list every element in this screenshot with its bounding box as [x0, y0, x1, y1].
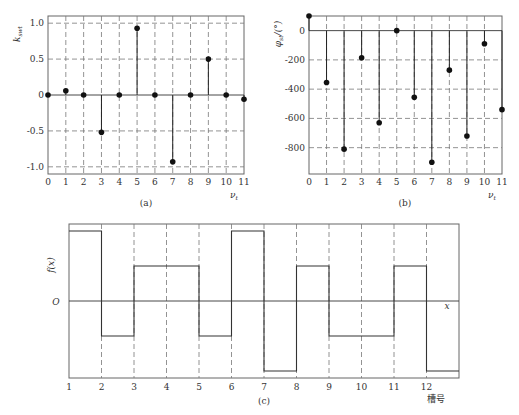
y-tick-label: 0 [299, 26, 305, 36]
data-point [241, 97, 247, 103]
x-tick-label: 3 [131, 382, 137, 392]
x-tick-label: 11 [496, 177, 507, 187]
x-tick-label: 5 [196, 382, 202, 392]
data-point [81, 92, 87, 98]
data-point [394, 28, 400, 34]
data-point [324, 80, 330, 86]
x-tick-label: 2 [99, 382, 105, 392]
data-point [464, 133, 470, 139]
x-tick-label: 4 [376, 177, 382, 187]
data-point [116, 92, 122, 98]
y-axis-label: φst/(°) [273, 20, 284, 47]
data-point [223, 92, 229, 98]
chart-b: 0-200-400-600-80001234567891011νtφst/(°)… [273, 13, 508, 208]
chart-caption: (c) [258, 396, 270, 406]
x-tick-label: 8 [188, 177, 194, 187]
y-tick-label: -600 [285, 113, 305, 123]
x-tick-label: 9 [205, 177, 211, 187]
x-tick-label: 2 [81, 177, 87, 187]
x-tick-label: 3 [99, 177, 105, 187]
x-tick-label: 7 [261, 382, 267, 392]
data-point [134, 25, 140, 31]
data-point [306, 13, 312, 19]
x-tick-label: 9 [464, 177, 470, 187]
x-tick-label: 0 [45, 177, 51, 187]
data-point [99, 130, 105, 136]
x-tick-label: 1 [324, 177, 330, 187]
data-point [411, 94, 417, 100]
data-point [376, 120, 382, 126]
data-point [482, 41, 488, 47]
x-tick-label: 7 [429, 177, 435, 187]
y-tick-label: 0.5 [30, 54, 45, 64]
x-tick-label: 1 [66, 382, 72, 392]
axis-x-label: x [444, 301, 449, 311]
x-tick-label: 12 [421, 382, 432, 392]
data-point [152, 92, 158, 98]
x-tick-label: 1 [63, 177, 69, 187]
y-tick-label: -200 [285, 55, 305, 65]
x-axis-label: νt [230, 190, 238, 201]
x-tick-label: 6 [229, 382, 235, 392]
x-tick-label: 4 [164, 382, 170, 392]
y-tick-label: -0.5 [27, 126, 45, 136]
data-point [188, 92, 194, 98]
data-point [447, 67, 453, 73]
data-point [499, 107, 505, 113]
data-point [170, 159, 176, 165]
figure: 1.00.50-0.5-1.001234567891011νtkswt(a)0-… [0, 0, 519, 415]
x-axis-label: 槽号 [427, 393, 445, 404]
x-tick-label: 2 [341, 177, 347, 187]
x-tick-label: 9 [326, 382, 332, 392]
x-tick-label: 0 [306, 177, 312, 187]
data-point [63, 88, 69, 94]
chart-caption: (a) [140, 198, 152, 208]
chart-c: 123456789101112f(x)Ox槽号(c) [46, 224, 459, 406]
x-tick-label: 11 [238, 177, 249, 187]
y-tick-label: 1.0 [30, 18, 45, 28]
data-point [341, 146, 347, 152]
x-tick-label: 4 [116, 177, 122, 187]
x-tick-label: 8 [446, 177, 452, 187]
x-tick-label: 3 [359, 177, 365, 187]
x-tick-label: 10 [479, 177, 491, 187]
origin-label: O [52, 297, 60, 307]
x-tick-label: 6 [152, 177, 158, 187]
plot-frame [309, 16, 502, 174]
y-tick-label: -800 [285, 143, 305, 153]
x-tick-label: 10 [356, 382, 368, 392]
data-point [359, 55, 365, 61]
data-point [429, 159, 435, 165]
x-tick-label: 11 [388, 382, 399, 392]
y-tick-label: -400 [285, 84, 305, 94]
chart-a: 1.00.50-0.5-1.001234567891011νtkswt(a) [12, 16, 250, 208]
x-tick-label: 6 [411, 177, 417, 187]
x-axis-label: νt [488, 190, 496, 201]
y-tick-label: -1.0 [27, 162, 45, 172]
data-point [45, 92, 51, 98]
x-tick-label: 8 [294, 382, 300, 392]
y-axis-label: f(x) [46, 257, 56, 274]
y-tick-label: 0 [38, 90, 44, 100]
y-axis-label: kswt [12, 25, 23, 42]
x-tick-label: 10 [220, 177, 232, 187]
chart-caption: (b) [399, 198, 412, 208]
data-point [206, 56, 212, 62]
x-tick-label: 7 [170, 177, 176, 187]
x-tick-label: 5 [134, 177, 140, 187]
x-tick-label: 5 [394, 177, 400, 187]
